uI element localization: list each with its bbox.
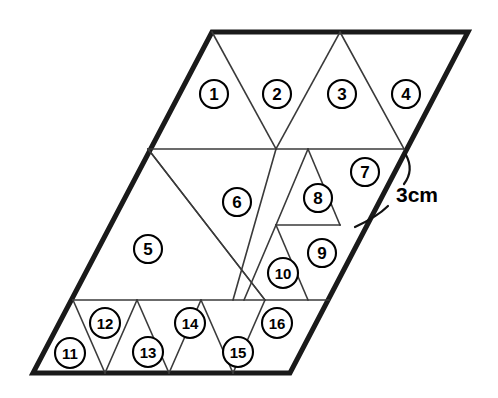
label-number-14: 14 — [182, 315, 199, 332]
triangle-label-2: 2 — [263, 80, 291, 108]
triangle-label-7: 7 — [351, 158, 379, 186]
triangle-label-16: 16 — [262, 308, 292, 338]
label-number-1: 1 — [209, 85, 218, 104]
label-number-13: 13 — [140, 344, 157, 361]
label-number-3: 3 — [337, 85, 346, 104]
triangle-label-4: 4 — [392, 80, 420, 108]
label-number-2: 2 — [272, 85, 281, 104]
triangle-label-1: 1 — [200, 80, 228, 108]
triangle-label-10: 10 — [268, 258, 298, 288]
label-number-8: 8 — [313, 189, 322, 208]
label-number-7: 7 — [360, 163, 369, 182]
triangle-label-15: 15 — [223, 337, 253, 367]
label-number-9: 9 — [317, 244, 326, 263]
figure-canvas: 12345678910111213141516 3cm — [0, 0, 498, 398]
triangle-label-9: 9 — [308, 239, 336, 267]
triangle-label-11: 11 — [55, 338, 85, 368]
label-number-4: 4 — [401, 85, 411, 104]
label-number-6: 6 — [232, 193, 241, 212]
label-number-12: 12 — [97, 315, 114, 332]
triangle-label-6: 6 — [223, 188, 251, 216]
geometry-figure: 12345678910111213141516 3cm — [0, 0, 498, 398]
label-number-5: 5 — [143, 240, 152, 259]
triangle-label-8: 8 — [304, 184, 332, 212]
triangle-label-13: 13 — [133, 337, 163, 367]
triangle-label-5: 5 — [134, 235, 162, 263]
triangle-label-12: 12 — [90, 308, 120, 338]
dimension-label-3cm: 3cm — [396, 183, 438, 206]
label-number-16: 16 — [269, 315, 286, 332]
triangle-label-14: 14 — [175, 308, 205, 338]
label-number-15: 15 — [230, 344, 247, 361]
label-number-10: 10 — [275, 265, 292, 282]
label-number-11: 11 — [62, 345, 78, 362]
triangle-label-3: 3 — [328, 80, 356, 108]
dimension-leader-upper-icon — [404, 155, 410, 184]
